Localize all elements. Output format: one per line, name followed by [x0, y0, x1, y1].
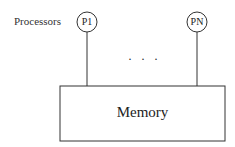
processors-label: Processors — [14, 15, 61, 27]
ellipsis: · · · — [128, 52, 161, 67]
processor-pn-label: PN — [187, 12, 207, 32]
processor-p1-label: P1 — [77, 12, 97, 32]
memory-label: Memory — [60, 104, 225, 121]
